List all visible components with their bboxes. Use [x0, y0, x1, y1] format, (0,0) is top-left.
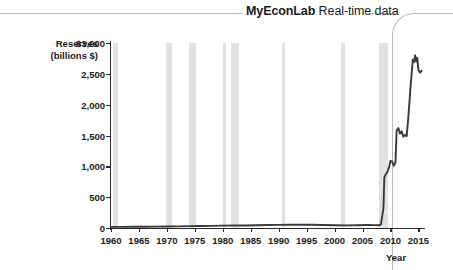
x-axis-title: Year [386, 252, 406, 263]
reserves-chart: Reserves (billions $) 05001,0001,5002,00… [0, 0, 453, 270]
x-axis-tick-label: 2015 [402, 236, 434, 246]
plot-area [111, 43, 424, 228]
y-axis-tick-label: 0 [100, 224, 105, 234]
y-axis-tick-label: 500 [89, 193, 105, 203]
x-axis-tick [167, 228, 168, 232]
reserves-line [111, 55, 422, 227]
x-axis-tick [390, 228, 391, 232]
x-axis-tick [418, 228, 419, 232]
x-axis-tick [251, 228, 252, 232]
series-line-svg [111, 43, 424, 228]
y-axis-title-line2: (billions $) [6, 50, 98, 62]
x-axis-tick [363, 228, 364, 232]
x-axis-tick [111, 228, 112, 232]
y-axis-tick-label: $3,000 [76, 39, 105, 49]
x-axis-tick [335, 228, 336, 232]
y-axis-tick-label: 1,500 [81, 132, 105, 142]
x-axis-tick [223, 228, 224, 232]
x-axis-line [110, 228, 425, 229]
y-axis-tick-label: 2,500 [81, 70, 105, 80]
x-axis-tick [139, 228, 140, 232]
x-axis-tick [195, 228, 196, 232]
x-axis-tick [307, 228, 308, 232]
x-axis-tick [279, 228, 280, 232]
y-axis-tick-label: 1,000 [81, 162, 105, 172]
y-axis-tick-label: 2,000 [81, 101, 105, 111]
